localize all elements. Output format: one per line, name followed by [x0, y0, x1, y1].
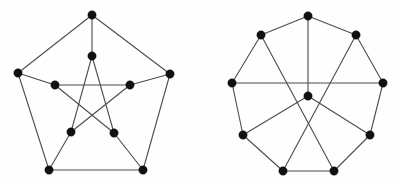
graph-vertex-i1: inner-right: [126, 81, 134, 89]
graph-vertex-r0: ring-top: [304, 12, 312, 20]
graph-vertex-r4: ring-bottom-right: [330, 167, 338, 175]
graph-vertex-r5: ring-bottom-left: [279, 167, 287, 175]
graph-vertex-r7: ring-left: [228, 79, 236, 87]
graph-vertex-r1: ring-upper-right: [352, 31, 360, 39]
graph-vertex-r3: ring-lower-right: [366, 131, 374, 139]
graph-vertex-i3: inner-bottom-left: [67, 128, 75, 136]
graph-vertex-i2: inner-bottom-right: [110, 129, 118, 137]
graph-vertex-r2: ring-right: [379, 79, 387, 87]
graph-vertex-r8: ring-upper-left: [257, 31, 265, 39]
graph-vertex-r6: ring-lower-left: [239, 131, 247, 139]
graph-vertex-o4: outer-left: [14, 69, 22, 77]
graph-vertex-o0: outer-top: [88, 11, 96, 19]
graph-vertex-i4: inner-left: [51, 81, 59, 89]
graph-vertex-i0: inner-top: [88, 52, 96, 60]
graph-vertex-o2: outer-bottom-right: [139, 166, 147, 174]
graph-vertex-c0: center-hub: [304, 92, 312, 100]
graph-vertex-o1: outer-right: [166, 70, 174, 78]
graph-vertex-o3: outer-bottom-left: [45, 166, 53, 174]
graph-figure-canvas: outer-topouter-rightouter-bottom-rightou…: [0, 0, 398, 187]
